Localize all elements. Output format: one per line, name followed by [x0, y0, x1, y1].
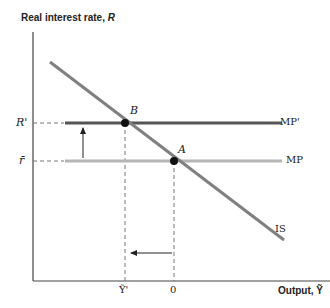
zero-tick: 0 [170, 284, 176, 295]
mp-prime-label: MP' [280, 116, 300, 127]
y-prime-tick: Ỹ' [119, 284, 128, 295]
x-axis-label: Output, Ỹ [278, 285, 323, 296]
point-a-label: A [178, 143, 186, 156]
is-curve [50, 62, 284, 240]
is-label: IS [275, 223, 286, 234]
point-b-label: B [130, 104, 138, 117]
r-bar-tick: r̄ [19, 154, 24, 167]
point-b [121, 119, 129, 127]
point-a [170, 157, 178, 165]
mp-label: MP [286, 154, 303, 165]
r-prime-tick: R' [16, 116, 27, 129]
chart-canvas [0, 0, 330, 308]
y-axis-label: Real interest rate, R [21, 12, 115, 23]
